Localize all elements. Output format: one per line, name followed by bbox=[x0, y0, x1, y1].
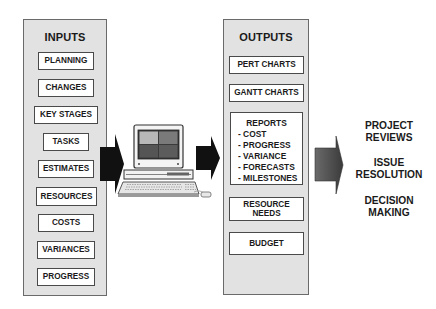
report-item-progress: - PROGRESS bbox=[238, 140, 302, 151]
result-line: REVIEWS bbox=[345, 132, 433, 144]
input-estimates: ESTIMATES bbox=[38, 160, 94, 178]
result-decision-making: DECISION MAKING bbox=[345, 195, 433, 219]
input-resources: RESOURCES bbox=[36, 187, 97, 206]
input-progress: PROGRESS bbox=[37, 268, 95, 286]
output-resource-needs: RESOURCE NEEDS bbox=[229, 197, 304, 221]
result-issue-resolution: ISSUE RESOLUTION bbox=[345, 157, 433, 181]
arrow-right-icon bbox=[313, 135, 347, 195]
reports-title: REPORTS bbox=[231, 118, 302, 129]
outputs-title: OUTPUTS bbox=[224, 31, 308, 43]
report-item-forecasts: - FORECASTS bbox=[238, 162, 302, 173]
result-project-reviews: PROJECT REVIEWS bbox=[345, 120, 433, 144]
input-planning: PLANNING bbox=[38, 52, 94, 70]
result-line: ISSUE bbox=[345, 157, 433, 169]
result-line: RESOLUTION bbox=[345, 169, 433, 181]
report-item-milestones: - MILESTONES bbox=[238, 173, 302, 184]
output-gantt-charts: GANTT CHARTS bbox=[229, 84, 304, 102]
output-budget: BUDGET bbox=[229, 232, 304, 255]
result-line: MAKING bbox=[345, 207, 433, 219]
resource-needs-line1: RESOURCE bbox=[243, 200, 289, 209]
result-line: DECISION bbox=[345, 195, 433, 207]
input-tasks: TASKS bbox=[43, 133, 89, 151]
output-reports: REPORTS - COST - PROGRESS - VARIANCE - F… bbox=[230, 112, 303, 185]
inputs-title: INPUTS bbox=[24, 31, 106, 43]
input-changes: CHANGES bbox=[38, 79, 94, 97]
input-key-stages: KEY STAGES bbox=[34, 106, 98, 124]
arrow-right-icon bbox=[195, 134, 225, 184]
report-item-variance: - VARIANCE bbox=[238, 151, 302, 162]
input-costs: COSTS bbox=[38, 214, 94, 232]
output-pert-charts: PERT CHARTS bbox=[229, 56, 304, 74]
result-line: PROJECT bbox=[345, 120, 433, 132]
resource-needs-line2: NEEDS bbox=[252, 209, 280, 218]
report-item-cost: - COST bbox=[238, 129, 302, 140]
reports-list: - COST - PROGRESS - VARIANCE - FORECASTS… bbox=[231, 129, 302, 184]
input-variances: VARIANCES bbox=[37, 241, 95, 259]
